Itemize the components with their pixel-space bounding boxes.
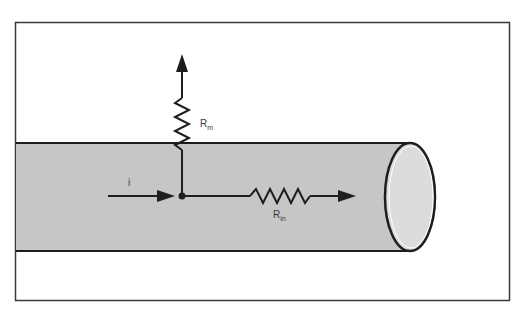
cylinder-end-face xyxy=(385,143,435,251)
internal-resistance-label-sub: in xyxy=(280,215,286,222)
junction-node xyxy=(179,193,186,200)
membrane-resistance-label-sub: m xyxy=(207,124,213,131)
current-label: i xyxy=(128,177,130,188)
cable-diagram: i Rm Rin xyxy=(0,0,525,317)
membrane-resistance-label-main: R xyxy=(200,118,207,129)
internal-resistance-label-main: R xyxy=(273,209,280,220)
